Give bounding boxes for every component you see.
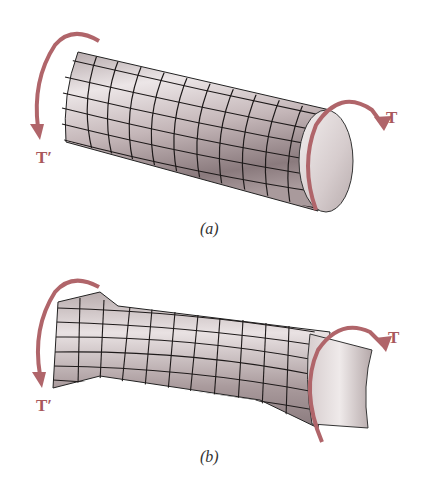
figure-a-circular-shaft: T T′ (a) — [0, 0, 425, 250]
caption-a: (a) — [200, 220, 219, 238]
figure-b-rectangular-bar: T T′ (b) — [0, 250, 425, 496]
arrowhead-left — [30, 124, 44, 140]
arrowhead-left — [32, 372, 46, 388]
torque-label-T: T — [386, 108, 397, 128]
torque-label-T: T — [388, 328, 399, 348]
bar-body — [53, 292, 330, 428]
torque-label-T-prime: T′ — [36, 148, 52, 168]
torque-label-T-prime: T′ — [36, 396, 52, 416]
caption-b: (b) — [200, 448, 219, 466]
shaft-drawing — [0, 0, 425, 250]
